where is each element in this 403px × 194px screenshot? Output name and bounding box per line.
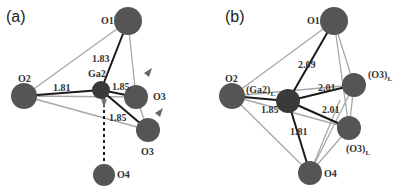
label-o3-upper-b: (O3)L <box>368 69 392 83</box>
atom-o2-a <box>11 83 37 109</box>
atom-o1-a <box>114 7 142 35</box>
bond-length-ga2-o3-upper-b: 2.01 <box>318 82 336 93</box>
atom-ga2-a <box>92 81 110 99</box>
atom-o3-upper-b <box>342 73 366 97</box>
panel-a-label: (a) <box>6 8 26 25</box>
label-o2-a: O2 <box>18 73 31 84</box>
bond-length-ga2-o1-b: 2.09 <box>298 59 316 70</box>
label-ga2-a: Ga2 <box>88 68 106 79</box>
label-o3-upper-a: O3 <box>153 91 166 102</box>
label-o4-b: O4 <box>324 168 337 179</box>
arrow-icon <box>155 108 163 117</box>
diagram-canvas: (a) O1 O2 <box>0 0 403 194</box>
label-o1-b: O1 <box>307 15 320 26</box>
bond-length-ga2-o2-a: 1.81 <box>53 82 71 93</box>
atom-o1-b <box>320 7 348 35</box>
bond-length-ga2-o4-b: 1.81 <box>290 126 308 137</box>
bond-length-ga2-o3-upper-a: 1.85 <box>112 81 130 92</box>
label-o4-a: O4 <box>117 169 130 180</box>
label-o3-lower-b: (O3)L <box>346 143 370 157</box>
label-o3-lower-a: O3 <box>141 146 154 157</box>
label-o2-b: O2 <box>225 73 238 84</box>
atom-ga2-b <box>276 89 300 113</box>
panel-b-label: (b) <box>225 8 245 25</box>
atom-o4-b <box>298 161 322 185</box>
label-ga2-b: (Ga2)L <box>246 84 275 98</box>
bond-length-ga2-o3-lower-a: 1.85 <box>109 112 127 123</box>
atom-o3-lower-b <box>337 116 361 140</box>
bond-length-ga2-o2-b: 1.85 <box>261 104 279 115</box>
bond-length-ga2-o1-a: 1.83 <box>92 53 110 64</box>
label-o1-a: O1 <box>101 15 114 26</box>
panel-b: (b) O1 O2 <box>219 7 392 185</box>
bond-length-ga2-o3-lower-b: 2.01 <box>322 104 340 115</box>
atom-o3-lower-a <box>136 118 160 142</box>
atom-o2-b <box>219 83 245 109</box>
panel-a: (a) O1 O2 <box>6 7 166 186</box>
arrow-down-icon <box>101 99 107 108</box>
atom-o4-a <box>93 164 115 186</box>
arrow-icon <box>144 68 152 77</box>
